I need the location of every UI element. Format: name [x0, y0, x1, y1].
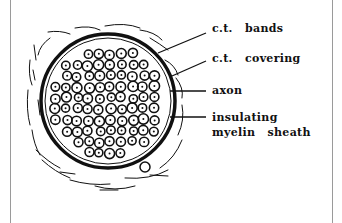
label-myelin-sheath: myelin sheath [212, 126, 311, 139]
label-axon: axon [212, 84, 242, 97]
label-ct-bands: c.t. bands [212, 22, 283, 35]
label-ct-covering: c.t. covering [212, 52, 301, 65]
label-insulating: insulating [212, 111, 278, 124]
axon-fibers [50, 48, 160, 158]
nerve-cross-section-drawing [0, 0, 342, 223]
